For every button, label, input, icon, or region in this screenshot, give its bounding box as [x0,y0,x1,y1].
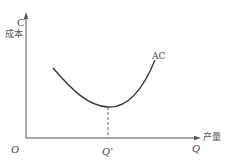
origin-label: O [11,144,19,155]
ac-cost-chart [0,0,230,165]
ac-curve [53,60,155,107]
y-axis-label: 成本 [5,30,23,39]
x-axis-symbol: Q [192,143,200,154]
ac-curve-label: AC [152,52,165,61]
q-prime-label: Q' [102,146,112,157]
x-axis-label: 产量 [203,133,221,142]
y-axis-arrow-icon [24,12,28,19]
y-axis-symbol: C [17,17,24,28]
x-axis-arrow-icon [194,136,201,140]
